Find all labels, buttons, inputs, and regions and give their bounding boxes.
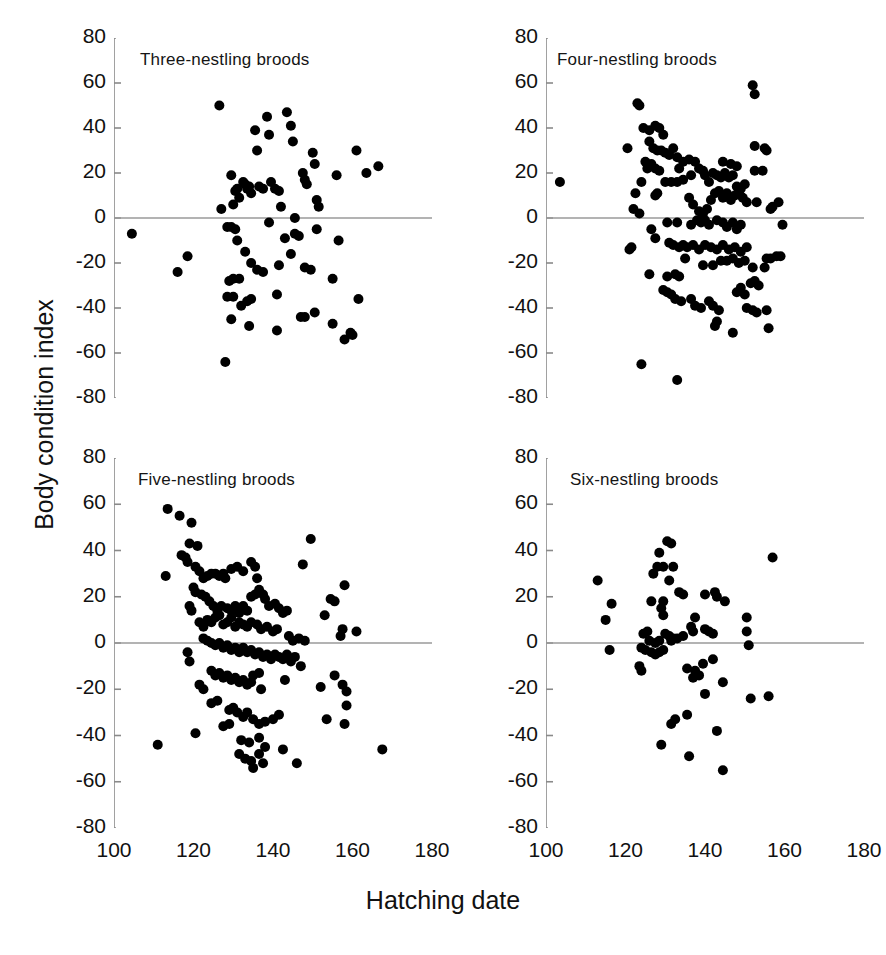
scatter-point	[666, 539, 676, 549]
scatter-point	[330, 670, 340, 680]
scatter-point	[607, 599, 617, 609]
scatter-point	[353, 294, 363, 304]
y-tick-label: -40	[48, 294, 106, 318]
y-tick-label: 80	[480, 24, 538, 48]
scatter-point	[758, 166, 768, 176]
scatter-point	[228, 292, 238, 302]
scatter-point	[682, 710, 692, 720]
scatter-point	[290, 213, 300, 223]
y-tick-label: 80	[48, 24, 106, 48]
x-tick-label: 100	[84, 838, 144, 862]
scatter-point	[718, 677, 728, 687]
x-axis-title: Hatching date	[0, 886, 886, 915]
scatter-point	[728, 328, 738, 338]
scatter-point	[742, 613, 752, 623]
y-tick-label: -80	[480, 814, 538, 838]
scatter-point	[220, 357, 230, 367]
scatter-point	[684, 751, 694, 761]
scatter-point	[750, 89, 760, 99]
scatter-point	[264, 130, 274, 140]
scatter-point	[246, 188, 256, 198]
scatter-point	[238, 566, 248, 576]
y-tick-label: -80	[48, 384, 106, 408]
scatter-point	[662, 218, 672, 228]
panel-four-nestling-broods	[546, 38, 864, 398]
y-tick-label: 60	[480, 490, 538, 514]
scatter-point	[742, 242, 752, 252]
scatter-point	[658, 130, 668, 140]
scatter-point	[278, 744, 288, 754]
y-tick-label: 40	[480, 114, 538, 138]
y-tick-label: 60	[480, 69, 538, 93]
scatter-point	[322, 714, 332, 724]
scatter-point	[622, 143, 632, 153]
scatter-point	[296, 661, 306, 671]
scatter-point	[760, 263, 770, 273]
scatter-point	[214, 101, 224, 111]
scatter-point	[744, 640, 754, 650]
scatter-point	[555, 177, 565, 187]
x-tick-label: 180	[402, 838, 462, 862]
scatter-point	[342, 687, 352, 697]
scatter-point	[688, 626, 698, 636]
scatter-point	[636, 177, 646, 187]
x-tick-label: 120	[164, 838, 224, 862]
scatter-point	[714, 305, 724, 315]
y-tick-label: -60	[480, 768, 538, 792]
scatter-point	[708, 654, 718, 664]
scatter-point	[768, 202, 778, 212]
y-tick-label: -40	[48, 722, 106, 746]
scatter-point	[310, 308, 320, 318]
y-tick-label: -20	[48, 675, 106, 699]
scatter-figure: Body condition index Three-nestling broo…	[0, 0, 886, 955]
scatter-point	[605, 645, 615, 655]
scatter-point	[340, 580, 350, 590]
scatter-point	[250, 125, 260, 135]
scatter-point	[306, 265, 316, 275]
scatter-point	[654, 548, 664, 558]
scatter-point	[258, 758, 268, 768]
scatter-point	[752, 197, 762, 207]
scatter-point	[282, 107, 292, 117]
scatter-point	[246, 294, 256, 304]
scatter-point	[702, 204, 712, 214]
scatter-point	[286, 249, 296, 259]
scatter-point	[300, 636, 310, 646]
scatter-point	[646, 224, 656, 234]
scatter-point	[688, 673, 698, 683]
scatter-point	[342, 700, 352, 710]
scatter-point	[718, 765, 728, 775]
scatter-point	[300, 312, 310, 322]
y-tick-label: -20	[480, 249, 538, 273]
scatter-point	[310, 159, 320, 169]
scatter-point	[340, 719, 350, 729]
scatter-point	[212, 696, 222, 706]
scatter-point	[280, 675, 290, 685]
plot-area-six-nestling	[546, 458, 864, 828]
plot-area-five-nestling	[114, 458, 432, 828]
scatter-series	[593, 536, 778, 775]
scatter-point	[636, 359, 646, 369]
scatter-point	[636, 666, 646, 676]
scatter-series	[555, 80, 788, 385]
scatter-point	[746, 694, 756, 704]
scatter-point	[272, 290, 282, 300]
scatter-point	[634, 209, 644, 219]
y-tick-label: 40	[480, 537, 538, 561]
scatter-point	[351, 146, 361, 156]
scatter-point	[288, 137, 298, 147]
scatter-point	[764, 691, 774, 701]
scatter-point	[672, 218, 682, 228]
scatter-point	[740, 290, 750, 300]
scatter-point	[678, 631, 688, 641]
y-tick-label: -80	[480, 384, 538, 408]
scatter-point	[700, 689, 710, 699]
scatter-point	[704, 177, 714, 187]
scatter-point	[698, 659, 708, 669]
scatter-point	[272, 624, 282, 634]
y-tick-label: -40	[480, 722, 538, 746]
scatter-series	[127, 101, 383, 368]
x-tick-label: 120	[596, 838, 656, 862]
y-tick-label: 20	[480, 583, 538, 607]
scatter-point	[153, 740, 163, 750]
